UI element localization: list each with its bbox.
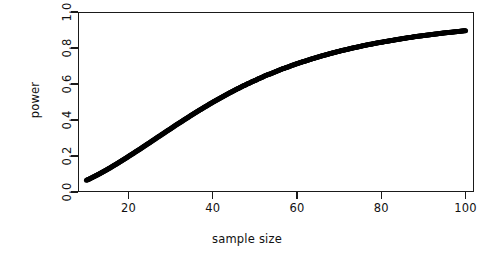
x-tick-80 <box>381 192 382 199</box>
x-tick-20 <box>128 192 129 199</box>
x-tick-label-60: 60 <box>277 202 317 215</box>
y-tick-label-0.6: 0.6 <box>61 69 73 99</box>
data-point <box>463 28 468 33</box>
data-series-power <box>84 28 468 183</box>
x-tick-label-20: 20 <box>109 202 149 215</box>
y-tick-label-0.8: 0.8 <box>61 33 73 63</box>
x-tick-100 <box>465 192 466 199</box>
y-tick-label-1.0: 1.0 <box>61 0 73 27</box>
power-curve-figure: 204060801000.00.20.40.60.81.0 sample siz… <box>0 0 494 259</box>
y-axis-title: power <box>28 60 42 140</box>
x-tick-label-100: 100 <box>446 202 486 215</box>
y-tick-label-0.2: 0.2 <box>61 141 73 171</box>
x-axis-title: sample size <box>0 232 494 246</box>
x-tick-40 <box>212 192 213 199</box>
y-tick-label-0.0: 0.0 <box>61 177 73 207</box>
x-tick-label-80: 80 <box>361 202 401 215</box>
plot-canvas <box>78 12 474 192</box>
x-tick-label-40: 40 <box>193 202 233 215</box>
x-tick-60 <box>296 192 297 199</box>
y-tick-label-0.4: 0.4 <box>61 105 73 135</box>
